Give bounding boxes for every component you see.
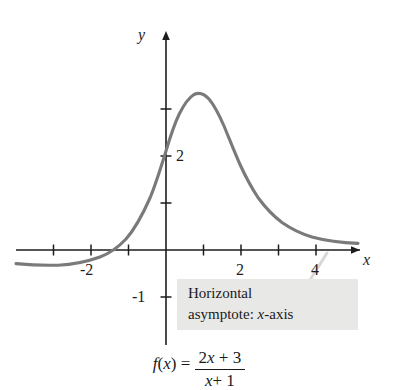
formula-numerator: 2x + 3 (195, 348, 246, 370)
formula-equals: = (181, 354, 191, 373)
callout-line-2: asymptote: x-axis (188, 304, 358, 325)
x-tick-label-neg2: -2 (80, 262, 93, 278)
y-tick-label-neg1: -1 (132, 289, 145, 305)
formula-fraction: 2x + 3 x+ 1 (195, 348, 246, 390)
y-axis-arrowhead (162, 31, 170, 40)
formula-numerator-coef: 2 (199, 348, 208, 367)
y-tick-label-2: 2 (176, 148, 184, 164)
formula-numerator-var: x (207, 348, 215, 367)
y-axis-label: y (138, 27, 145, 43)
x-axis-label: x (363, 252, 370, 268)
formula-argument: x (163, 354, 171, 373)
formula-denominator: x+ 1 (195, 370, 246, 390)
formula-numerator-plus: + 3 (219, 348, 241, 367)
callout-text: Horizontal asymptote: x-axis (188, 283, 358, 326)
callout-line-2-suffix: -axis (264, 306, 293, 322)
x-tick-label-4: 4 (311, 262, 319, 278)
formula-close-paren: ) (171, 354, 177, 373)
x-tick-label-2: 2 (236, 262, 244, 278)
function-formula: f(x) = 2x + 3 x+ 1 (0, 344, 398, 387)
function-curve (16, 93, 358, 265)
callout-line-1: Horizontal (188, 283, 358, 304)
x-axis-arrowhead (351, 246, 360, 254)
formula-denominator-rest: + 1 (212, 371, 234, 390)
callout-line-2-prefix: asymptote: (188, 306, 258, 322)
